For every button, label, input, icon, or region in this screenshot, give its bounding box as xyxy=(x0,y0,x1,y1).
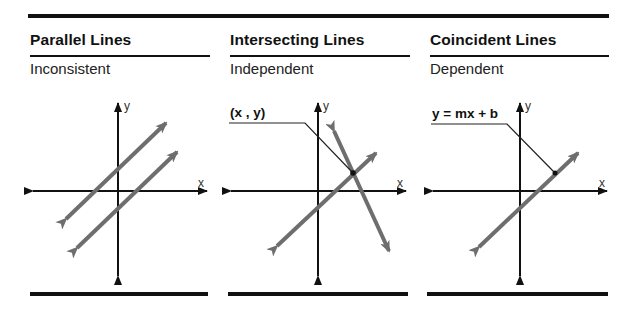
axes-panel-2 xyxy=(231,103,406,276)
equation-leader xyxy=(431,124,558,176)
parallel-lines xyxy=(66,123,177,248)
axes-panel-3 xyxy=(433,103,607,276)
x-axis-label: x xyxy=(198,176,204,190)
intersection-point-label: (x , y) xyxy=(230,105,265,120)
intersection-leader xyxy=(229,123,356,176)
graphs-canvas: y x y x y x xyxy=(0,0,632,309)
intersection-point xyxy=(350,170,356,176)
x-axis-label: x xyxy=(599,176,605,190)
x-axis-label: x xyxy=(397,176,403,190)
y-axis-label: y xyxy=(124,99,130,113)
y-axis-label: y xyxy=(525,99,531,113)
y-axis-label: y xyxy=(323,99,329,113)
axes-panel-1 xyxy=(33,103,207,276)
line-point xyxy=(553,171,558,176)
coincident-line xyxy=(479,153,578,247)
equation-label: y = mx + b xyxy=(432,106,498,121)
